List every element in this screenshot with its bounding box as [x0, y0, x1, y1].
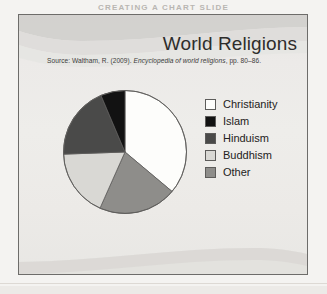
page-canvas: CREATING A CHART SLIDE World Religions S…	[0, 0, 327, 294]
legend-item[interactable]: Islam	[205, 113, 305, 130]
page-divider-rule	[0, 283, 327, 284]
chart-area: ChristianityIslamHinduismBuddhismOther	[19, 75, 307, 274]
chart-source-citation: Source: Waltham, R. (2009). Encyclopedia…	[47, 57, 297, 64]
running-head-text: CREATING A CHART SLIDE	[98, 3, 229, 10]
page-footer-band	[0, 286, 327, 294]
legend-swatch-icon	[205, 99, 216, 110]
legend-item-label: Hinduism	[223, 133, 269, 144]
pie-chart	[61, 88, 189, 216]
chart-legend: ChristianityIslamHinduismBuddhismOther	[205, 96, 305, 181]
legend-swatch-icon	[205, 133, 216, 144]
legend-item[interactable]: Other	[205, 164, 305, 181]
legend-item-label: Buddhism	[223, 150, 272, 161]
source-prefix: Source: Waltham, R. (2009).	[47, 57, 134, 64]
pie-slice-group	[64, 91, 187, 214]
source-suffix: , pp. 80–86.	[226, 57, 261, 64]
legend-item[interactable]: Christianity	[205, 96, 305, 113]
pie-chart-svg	[61, 88, 189, 216]
legend-item[interactable]: Hinduism	[205, 130, 305, 147]
legend-item-label: Other	[223, 167, 251, 178]
running-head: CREATING A CHART SLIDE	[0, 0, 327, 10]
legend-item-label: Islam	[223, 116, 249, 127]
legend-swatch-icon	[205, 150, 216, 161]
chart-slide-frame: World Religions Source: Waltham, R. (200…	[18, 14, 308, 275]
chart-title: World Religions	[163, 33, 297, 55]
legend-item[interactable]: Buddhism	[205, 147, 305, 164]
legend-item-label: Christianity	[223, 99, 277, 110]
legend-swatch-icon	[205, 167, 216, 178]
source-work-title: Encyclopedia of world religions	[134, 57, 226, 64]
legend-swatch-icon	[205, 116, 216, 127]
